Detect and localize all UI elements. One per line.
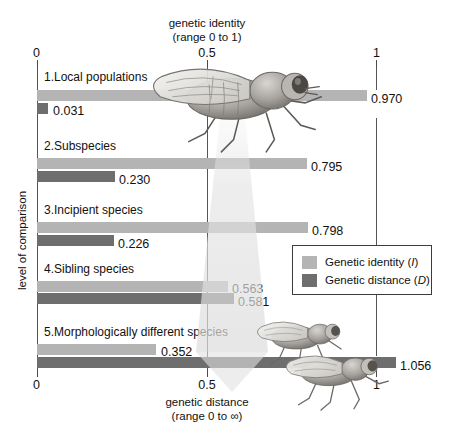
top-tick-label-0: 0	[33, 46, 40, 60]
top-tickmark-0.5	[207, 60, 208, 67]
bottom-tickmark-0	[37, 370, 38, 377]
top-axis-title-line2: (range 0 to 1)	[172, 31, 241, 44]
bar-value-identity-3: 0.798	[312, 224, 343, 238]
top-tick-label-1: 1	[373, 46, 380, 60]
bar-value-identity-1: 0.970	[371, 92, 402, 106]
bar-value-distance-4: 0.581	[238, 295, 269, 309]
top-axis-title-line1: genetic identity	[169, 17, 246, 30]
bar-value-distance-2: 0.230	[119, 173, 150, 187]
bar-identity-4	[37, 281, 228, 292]
legend-item-distance: Genetic distance (D)	[302, 271, 431, 289]
bar-value-identity-2: 0.795	[311, 160, 342, 174]
top-tickmark-0	[37, 60, 38, 67]
bottom-axis-title-line2: (range 0 to ∞)	[172, 410, 243, 423]
bottom-tick-label-0.5: 0.5	[198, 378, 215, 392]
gridline-1-seg3	[376, 295, 377, 356]
chart-legend: Genetic identity (I) Genetic distance (D…	[292, 245, 432, 295]
legend-swatch-distance	[302, 274, 317, 287]
top-tickmark-1	[376, 60, 377, 67]
category-label-1: 1.Local populations	[44, 70, 147, 84]
legend-label-identity: Genetic identity (I)	[325, 256, 418, 268]
category-label-4: 4.Sibling species	[44, 262, 134, 276]
bar-value-distance-1: 0.031	[53, 104, 84, 118]
bar-identity-1	[37, 90, 367, 101]
fly-illustration-large	[153, 69, 321, 152]
category-label-2: 2.Subspecies	[44, 139, 116, 153]
y-axis-title: level of comparison	[16, 191, 28, 290]
bottom-axis-title-line1: genetic distance	[165, 396, 248, 409]
bar-identity-5	[37, 344, 156, 355]
bar-identity-3	[37, 222, 308, 233]
bar-value-distance-3: 0.226	[118, 237, 149, 251]
bottom-tickmark-1	[376, 370, 377, 377]
legend-label-distance: Genetic distance (D)	[325, 274, 430, 286]
category-label-3: 3.Incipient species	[44, 203, 143, 217]
bar-distance-1	[37, 103, 48, 114]
legend-swatch-identity	[302, 256, 317, 269]
legend-item-identity: Genetic identity (I)	[302, 253, 431, 271]
gridline-1-seg2	[376, 118, 377, 245]
bottom-tick-label-1: 1	[373, 378, 380, 392]
top-tick-label-0.5: 0.5	[198, 46, 215, 60]
bar-distance-5	[37, 357, 396, 368]
category-label-5: 5.Morphologically different species	[44, 325, 228, 339]
bar-identity-2	[37, 158, 307, 169]
bar-distance-4	[37, 293, 234, 304]
bar-distance-3	[37, 235, 114, 246]
bottom-tick-label-0: 0	[33, 378, 40, 392]
bar-value-identity-4: 0.563	[232, 282, 263, 296]
bar-value-distance-5: 1.056	[400, 359, 431, 373]
decorative-artwork	[0, 0, 455, 439]
bottom-tickmark-0.5	[207, 370, 208, 377]
bar-distance-2	[37, 171, 115, 182]
figure-canvas: genetic identity (range 0 to 1) 0 0.5 1 …	[0, 0, 455, 439]
